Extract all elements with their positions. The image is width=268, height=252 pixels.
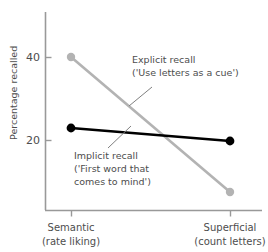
implicit-annotation-line-2: ('First word that [74,163,149,174]
implicit-annotation-line-1: Implicit recall [74,150,138,161]
x-category-label-superficial: Superficial [204,222,257,233]
data-point-implicit-superficial [226,137,235,146]
explicit-annotation-line-1: Explicit recall [132,54,195,65]
data-point-explicit-superficial [226,188,234,196]
y-tick-label-40: 40 [26,51,40,64]
chart-background [0,0,268,252]
data-point-explicit-semantic [67,53,75,61]
explicit-annotation-line-2: ('Use letters as a cue') [132,67,239,78]
x-category-sublabel-superficial: (count letters) [194,236,266,247]
y-axis-title: Percentage recalled [8,46,19,140]
y-tick-label-20: 20 [26,134,40,147]
x-category-sublabel-semantic: (rate liking) [42,236,100,247]
line-chart: 40 20 Percentage recalled Semantic (rate… [0,0,268,252]
chart-figure: 40 20 Percentage recalled Semantic (rate… [0,0,268,252]
x-category-label-semantic: Semantic [48,222,95,233]
implicit-annotation-line-3: comes to mind') [74,176,151,187]
data-point-implicit-semantic [67,124,76,133]
